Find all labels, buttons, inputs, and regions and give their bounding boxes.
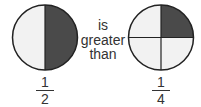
left-fraction-label: 1 2 <box>30 75 60 106</box>
denominator: 2 <box>30 92 60 106</box>
comparison-text: is greater than <box>78 18 128 62</box>
comparison-word: than <box>78 47 128 62</box>
quarter-circle-model <box>129 5 194 70</box>
half-circle-model <box>13 5 78 70</box>
right-fraction-label: 1 4 <box>146 75 176 106</box>
unshaded-half <box>13 5 46 70</box>
shaded-half <box>45 5 78 70</box>
numerator: 1 <box>30 75 60 89</box>
comparison-word: greater <box>78 33 128 48</box>
comparison-word: is <box>78 18 128 33</box>
numerator: 1 <box>146 75 176 89</box>
denominator: 4 <box>146 92 176 106</box>
